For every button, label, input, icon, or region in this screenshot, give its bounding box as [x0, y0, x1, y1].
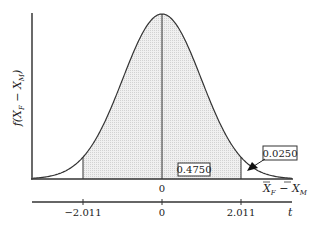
center-area-value: 0.4750 [177, 164, 212, 175]
t-distribution-chart: f(XF − XM) 0 XF − XM −2.011 0 2.011 t 0.… [0, 0, 323, 230]
x-axis-label: XF − XM [262, 182, 308, 197]
y-axis-label: f(XF − XM) [11, 70, 26, 128]
t-label-neg: −2.011 [64, 207, 101, 218]
tail-arrow-shaft [254, 159, 265, 166]
t-axis-label: t [288, 206, 293, 219]
x-axis-zero-label: 0 [159, 183, 165, 194]
t-label-zero: 0 [159, 207, 165, 218]
tail-area-value: 0.0250 [263, 148, 298, 159]
t-label-pos: 2.011 [227, 207, 256, 218]
svg-text:f(XF − XM): f(XF − XM) [11, 70, 26, 128]
